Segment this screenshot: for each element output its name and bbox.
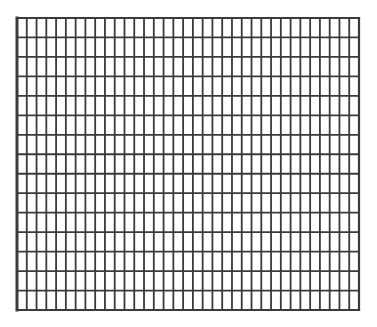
grid-lines [17, 18, 359, 310]
grid-paper [17, 18, 359, 310]
